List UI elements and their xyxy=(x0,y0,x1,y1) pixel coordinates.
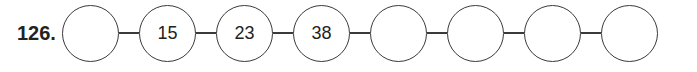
chain-circle-5[interactable] xyxy=(370,5,427,62)
chain-connector xyxy=(196,32,216,34)
chain-connector xyxy=(350,32,370,34)
chain-circle-2: 15 xyxy=(139,5,196,62)
chain-connector xyxy=(504,32,524,34)
chain-circle-8[interactable] xyxy=(601,5,658,62)
chain-connector xyxy=(427,32,447,34)
chain-circle-3: 23 xyxy=(216,5,273,62)
chain-circle-7[interactable] xyxy=(524,5,581,62)
chain-connector xyxy=(119,32,139,34)
problem-number: 126. xyxy=(17,22,56,45)
chain-connector xyxy=(581,32,601,34)
chain-connector xyxy=(273,32,293,34)
chain-circle-1[interactable] xyxy=(62,5,119,62)
chain-circle-6[interactable] xyxy=(447,5,504,62)
chain-circle-4: 38 xyxy=(293,5,350,62)
number-chain: 15 23 38 xyxy=(62,4,658,62)
